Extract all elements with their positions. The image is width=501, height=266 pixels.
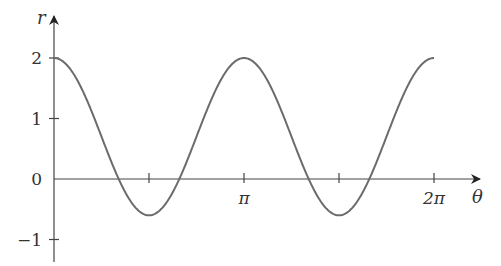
polar-r-vs-theta-chart: 210−1 π2π r θ (0, 0, 501, 266)
y-ticks: 210−1 (17, 48, 59, 250)
y-tick-label: 2 (31, 48, 42, 68)
y-axis-label: r (37, 7, 47, 28)
y-tick-label: 0 (31, 169, 42, 189)
x-tick-label: π (237, 188, 250, 208)
y-tick-label: −1 (17, 230, 42, 250)
x-ticks: π2π (149, 173, 446, 208)
y-tick-label: 1 (31, 109, 42, 129)
x-tick-label: 2π (422, 188, 446, 208)
x-axis-label: θ (472, 186, 483, 207)
